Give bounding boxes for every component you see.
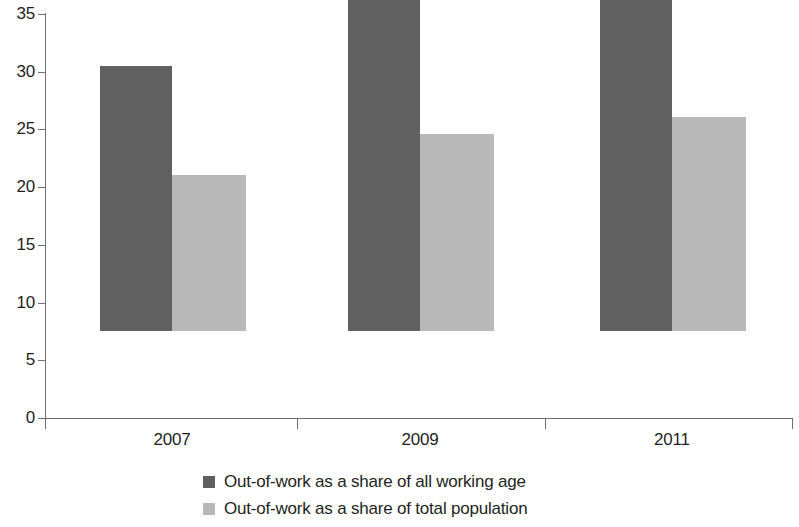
x-axis-label-2007: 2007 bbox=[112, 430, 232, 450]
y-axis-tick bbox=[38, 303, 46, 304]
bar-2009-series2 bbox=[420, 134, 494, 331]
legend-swatch-icon-dark bbox=[203, 476, 215, 488]
x-axis-tick-start bbox=[45, 419, 46, 429]
x-axis-tick-1 bbox=[297, 419, 298, 429]
y-axis-tick bbox=[38, 360, 46, 361]
chart-legend: Out-of-work as a share of all working ag… bbox=[203, 470, 527, 520]
y-axis-tick-label: 35 bbox=[5, 5, 35, 22]
y-axis-tick-label: 30 bbox=[5, 63, 35, 80]
y-axis-tick bbox=[38, 245, 46, 246]
y-axis-tick bbox=[38, 72, 46, 73]
bar-2011-series2 bbox=[672, 117, 746, 331]
x-axis-tick-end bbox=[792, 419, 793, 429]
legend-label: Out-of-work as a share of all working ag… bbox=[224, 472, 526, 492]
y-axis-tick-label: 25 bbox=[5, 120, 35, 137]
x-axis-label-2011: 2011 bbox=[612, 430, 732, 450]
y-axis-tick-label: 5 bbox=[5, 351, 35, 368]
plot-area: 05101520253035 200720092011 bbox=[0, 0, 799, 440]
bar-2011-series1 bbox=[600, 0, 672, 331]
y-axis-tick bbox=[38, 14, 46, 15]
y-axis-tick-label: 10 bbox=[5, 294, 35, 311]
legend-label: Out-of-work as a share of total populati… bbox=[224, 499, 527, 519]
y-axis-tick-label: 0 bbox=[5, 409, 35, 426]
y-axis-tick bbox=[38, 129, 46, 130]
x-axis-tick-2 bbox=[545, 419, 546, 429]
y-axis-line bbox=[45, 13, 46, 419]
bar-2009-series1 bbox=[348, 0, 420, 331]
legend-item-all-working-age: Out-of-work as a share of all working ag… bbox=[203, 470, 527, 493]
bar-2007-series2 bbox=[172, 175, 246, 331]
bar-2007-series1 bbox=[100, 66, 172, 331]
x-axis-label-2009: 2009 bbox=[360, 430, 480, 450]
bar-chart: 05101520253035 200720092011 Out-of-work … bbox=[0, 0, 799, 527]
y-axis-tick-label: 15 bbox=[5, 236, 35, 253]
legend-item-total-population: Out-of-work as a share of total populati… bbox=[203, 497, 527, 520]
y-axis-tick bbox=[38, 187, 46, 188]
x-axis-line bbox=[45, 418, 793, 419]
y-axis-tick-label: 20 bbox=[5, 178, 35, 195]
legend-swatch-icon-light bbox=[203, 503, 215, 515]
